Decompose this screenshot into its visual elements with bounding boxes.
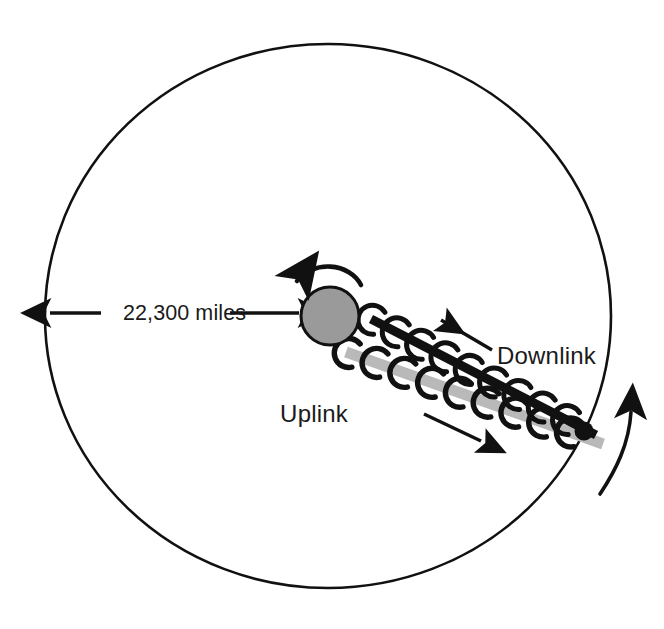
orbit-direction-arc-icon	[600, 412, 631, 494]
distance-label: 22,300 miles	[123, 301, 246, 325]
diagram-canvas: 22,300 miles Downlink Uplink	[0, 0, 664, 629]
satellite-orbit-diagram: 22,300 miles Downlink Uplink	[0, 0, 664, 629]
uplink-arrow	[424, 414, 481, 441]
earth-group	[297, 267, 361, 345]
uplink-label: Uplink	[280, 400, 349, 427]
earth-rotation-arc-icon	[297, 267, 361, 285]
distance-dimension: 22,300 miles	[50, 301, 299, 325]
ground-station-dot	[575, 422, 594, 441]
downlink-label: Downlink	[497, 342, 597, 369]
downlink-annotation: Downlink	[441, 320, 597, 369]
earth-body	[301, 287, 359, 345]
